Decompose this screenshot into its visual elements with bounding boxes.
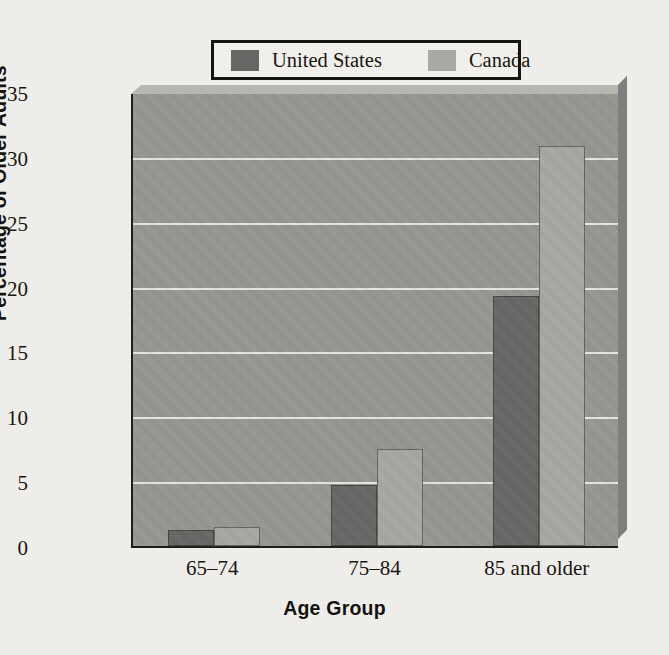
y-axis-tick-label: 35	[0, 82, 28, 107]
bar-chart-figure: United States Canada Percentage of Older…	[0, 0, 669, 655]
bar-united-states-group-1	[168, 530, 214, 546]
legend-swatch-united-states	[231, 50, 259, 71]
x-axis-tick-label: 65–74	[186, 556, 239, 581]
legend-entry-united-states: United States	[231, 49, 382, 72]
bar-united-states-group-3	[493, 296, 539, 546]
plot-bevel-top	[131, 85, 628, 94]
plot-bevel-right	[618, 76, 627, 539]
y-axis-tick-label: 25	[0, 211, 28, 236]
y-axis-tick-label: 10	[0, 406, 28, 431]
x-axis-tick-label: 85 and older	[484, 556, 589, 581]
bar-canada-group-3	[539, 146, 585, 546]
y-axis-tick-label: 0	[0, 536, 28, 561]
y-axis-tick-label: 15	[0, 341, 28, 366]
plot-area	[131, 94, 618, 548]
legend-swatch-canada	[428, 50, 456, 71]
x-axis-title: Age Group	[0, 597, 669, 620]
plot-wrapper	[131, 94, 618, 548]
y-axis-tick-label: 20	[0, 276, 28, 301]
bar-canada-group-2	[377, 449, 423, 546]
legend-entry-canada: Canada	[428, 49, 530, 72]
bar-united-states-group-2	[331, 485, 377, 546]
y-axis-tick-label: 5	[0, 471, 28, 496]
bar-canada-group-1	[214, 527, 260, 546]
chart-legend: United States Canada	[211, 40, 521, 80]
legend-label-canada: Canada	[469, 49, 530, 72]
y-axis-tick-label: 30	[0, 146, 28, 171]
x-axis-tick-label: 75–84	[348, 556, 401, 581]
legend-label-united-states: United States	[272, 49, 382, 72]
